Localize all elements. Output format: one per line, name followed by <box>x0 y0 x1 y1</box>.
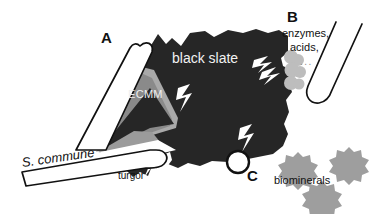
panel-label-c: C <box>247 168 258 184</box>
biomineral-star-right <box>329 147 369 185</box>
diagram-canvas: A B C black slate ECMM S. commune turgor… <box>0 0 372 214</box>
panel-label-a: A <box>101 30 112 46</box>
ecmm-label: ECMM <box>128 89 163 101</box>
biominerals-label: biominerals <box>274 175 330 187</box>
biomineral-pore-circle <box>227 151 249 173</box>
panel-label-b: B <box>287 9 298 25</box>
secretions-label-ellipsis: ... <box>300 57 313 68</box>
secretions-label-line2: acids, <box>290 42 319 54</box>
secretions-label-line1: enzymes, <box>282 28 329 40</box>
substrate-label: black slate <box>172 51 238 66</box>
turgor-label: turgor <box>118 171 144 182</box>
